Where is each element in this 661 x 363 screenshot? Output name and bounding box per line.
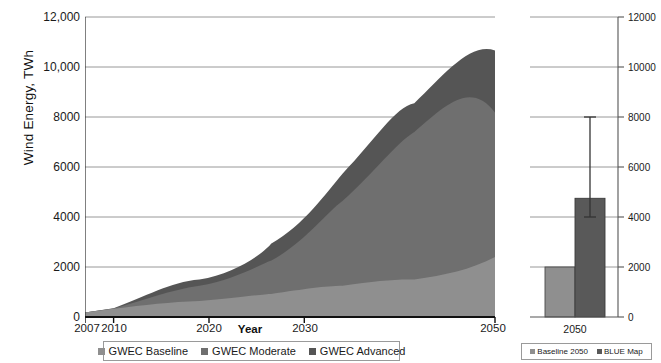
- legend-item-gwec-advanced[interactable]: GWEC Advanced: [309, 345, 406, 357]
- bar-chart-legend: Baseline 2050 BLUE Map: [521, 343, 652, 360]
- main-y-tick-labels: 12,000 10,000 8000 6000 4000 2000 0: [20, 0, 80, 363]
- bar-y-tick-4000: 4000: [628, 212, 661, 223]
- x-tick-2050: 2050: [480, 322, 506, 334]
- main-chart-legend: GWEC Baseline GWEC Moderate GWEC Advance…: [103, 341, 400, 361]
- bar-y-tick-marks: [618, 17, 624, 317]
- y-tick-12000: 12,000: [20, 10, 80, 24]
- y-tick-4000: 4000: [20, 210, 80, 224]
- bar-x-tick-2050: 2050: [563, 323, 586, 335]
- bar-y-tick-0: 0: [628, 312, 661, 323]
- legend-swatch-icon-baseline-2050: [530, 349, 535, 354]
- bar-chart-panel: 12000 10000 8000 6000 4000 2000 0 2050: [510, 0, 655, 363]
- bar-baseline-2050[interactable]: [545, 267, 575, 317]
- bar-y-tick-2000: 2000: [628, 262, 661, 273]
- main-plot-area: [85, 2, 515, 332]
- x-tick-2020: 2020: [196, 322, 222, 334]
- bar-y-tick-10000: 10000: [628, 62, 661, 73]
- bar-y-tick-12000: 12000: [628, 12, 661, 23]
- legend-swatch-icon-blue-map: [597, 349, 602, 354]
- legend-item-gwec-moderate[interactable]: GWEC Moderate: [201, 345, 296, 357]
- main-area-chart-panel: Wind Energy, TWh 12,000 10,000 8000 6000…: [0, 0, 510, 363]
- legend-label-gwec-moderate: GWEC Moderate: [212, 345, 296, 357]
- bar-y-tick-8000: 8000: [628, 112, 661, 123]
- y-tick-0: 0: [20, 310, 80, 324]
- legend-item-blue-map[interactable]: BLUE Map: [597, 347, 643, 356]
- legend-label-gwec-advanced: GWEC Advanced: [320, 345, 406, 357]
- y-tick-8000: 8000: [20, 110, 80, 124]
- y-tick-2000: 2000: [20, 260, 80, 274]
- y-tick-10000: 10,000: [20, 60, 80, 74]
- legend-label-baseline-2050: Baseline 2050: [537, 347, 588, 356]
- legend-label-gwec-baseline: GWEC Baseline: [109, 345, 188, 357]
- bar-plot-area: [518, 2, 628, 332]
- x-tick-2010: 2010: [101, 322, 127, 334]
- legend-item-baseline-2050[interactable]: Baseline 2050: [530, 347, 588, 356]
- y-tick-6000: 6000: [20, 160, 80, 174]
- legend-swatch-icon-advanced: [309, 348, 316, 355]
- x-tick-2007: 2007: [74, 322, 100, 334]
- x-tick-2030: 2030: [292, 322, 318, 334]
- legend-swatch-icon-baseline: [98, 348, 105, 355]
- legend-label-blue-map: BLUE Map: [604, 347, 643, 356]
- x-axis-title: Year: [238, 323, 262, 335]
- legend-item-gwec-baseline[interactable]: GWEC Baseline: [98, 345, 188, 357]
- legend-swatch-icon-moderate: [201, 348, 208, 355]
- bar-y-tick-6000: 6000: [628, 162, 661, 173]
